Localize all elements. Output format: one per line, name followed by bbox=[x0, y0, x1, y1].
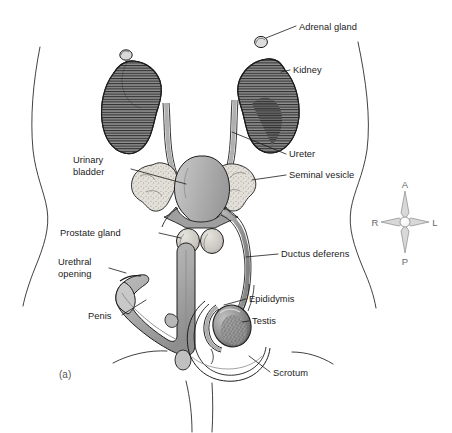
compass-center bbox=[400, 217, 410, 227]
compass-label-right: R bbox=[372, 217, 379, 228]
compass-label-anterior: A bbox=[402, 179, 409, 190]
panel-label: (a) bbox=[59, 369, 71, 380]
compass-label-posterior: P bbox=[402, 256, 408, 267]
label-urinary-bladder-line2: bladder bbox=[73, 167, 104, 177]
adrenal-gland-left bbox=[120, 50, 132, 60]
anatomy-figure: Adrenal gland Kidney Ureter Seminal vesi… bbox=[0, 0, 452, 433]
label-kidney: Kidney bbox=[293, 65, 322, 75]
label-epididymis: Epididymis bbox=[249, 294, 295, 304]
label-seminal-vesicle: Seminal vesicle bbox=[289, 170, 354, 180]
male-urogenital-system-diagram: Adrenal gland Kidney Ureter Seminal vesi… bbox=[0, 0, 452, 433]
label-urethral-opening-line2: opening bbox=[58, 269, 91, 279]
penis-bulb bbox=[175, 350, 191, 370]
label-urethral-opening-line1: Urethral bbox=[58, 257, 91, 267]
compass-label-left: L bbox=[432, 217, 437, 228]
label-prostate-gland: Prostate gland bbox=[60, 228, 121, 238]
label-ureter: Ureter bbox=[289, 149, 315, 159]
label-ductus-deferens: Ductus deferens bbox=[281, 249, 350, 259]
label-penis: Penis bbox=[88, 311, 112, 321]
label-urinary-bladder-line1: Urinary bbox=[73, 155, 104, 165]
label-testis: Testis bbox=[252, 316, 276, 326]
label-scrotum: Scrotum bbox=[273, 368, 308, 378]
label-adrenal-gland: Adrenal gland bbox=[299, 22, 357, 32]
